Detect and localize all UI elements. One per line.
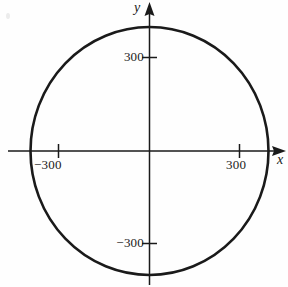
scan-artifact-speck — [6, 13, 10, 19]
y-axis-tick-label-positive: 300 — [104, 49, 144, 65]
figure-container: 300 −300 −300 300 x y — [0, 0, 288, 287]
x-axis-tick-label-negative: −300 — [34, 157, 92, 173]
y-axis-arrow-icon — [145, 2, 155, 16]
y-axis-name-label: y — [134, 0, 140, 16]
x-axis-tick-label-positive: 300 — [226, 157, 266, 173]
plot-canvas — [0, 0, 288, 287]
y-axis-tick-label-negative: −300 — [92, 235, 144, 251]
x-axis-name-label: x — [277, 152, 283, 168]
